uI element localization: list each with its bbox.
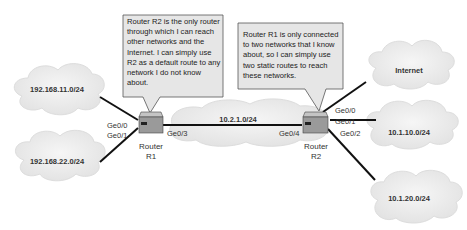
network-label-transit: 10.2.1.0/24 bbox=[219, 115, 257, 124]
router-r2-label-line2: R2 bbox=[304, 152, 328, 162]
port-label-r2-ge04: Ge0/4 bbox=[279, 129, 299, 138]
network-label-lan4: 10.1.20.0/24 bbox=[388, 194, 430, 203]
network-label-lan3: 10.1.10.0/24 bbox=[388, 128, 430, 137]
router-r1-label-line2: R1 bbox=[139, 152, 163, 162]
cloud-lan3 bbox=[367, 100, 458, 149]
network-label-lan1: 192.168.11.0/24 bbox=[30, 85, 84, 94]
callout-r2-text: Router R1 is only connected to two netwo… bbox=[243, 30, 343, 81]
router-r2-icon bbox=[303, 112, 328, 133]
link-r1-lan1 bbox=[100, 97, 138, 120]
port-label-r1-ge03: Ge0/3 bbox=[167, 129, 187, 138]
router-r1-label: Router R1 bbox=[139, 142, 163, 162]
router-r2-label: Router R2 bbox=[304, 142, 328, 162]
callout-r1-text: Router R2 is the only router through whi… bbox=[127, 17, 223, 88]
network-diagram: Router R2 is the only router through whi… bbox=[0, 0, 467, 230]
router-r2-label-line1: Router bbox=[304, 142, 328, 152]
port-label-r2-ge00: Ge0/0 bbox=[335, 106, 355, 115]
network-label-lan2: 192.168.22.0/24 bbox=[30, 157, 84, 166]
port-label-r2-ge01: Ge0/1 bbox=[335, 117, 355, 126]
router-r1-icon bbox=[139, 112, 163, 133]
port-label-r2-ge02: Ge0/2 bbox=[340, 129, 360, 138]
port-label-r1-ge01: Ge0/1 bbox=[107, 131, 127, 140]
router-r1-label-line1: Router bbox=[139, 142, 163, 152]
network-label-internet: Internet bbox=[395, 66, 423, 75]
port-label-r1-ge00: Ge0/0 bbox=[107, 121, 127, 130]
